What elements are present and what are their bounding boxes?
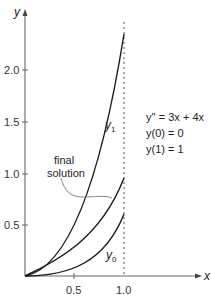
- curve-y1: [25, 34, 124, 276]
- x-tick-label-0.5: 0.5: [66, 284, 81, 296]
- boundary-condition-0: y(0) = 0: [146, 127, 184, 139]
- x-axis-label: x: [203, 269, 211, 283]
- y-axis-label: y: [13, 5, 21, 19]
- label-y1: y1: [104, 118, 116, 134]
- y-tick-label-2.0: 2.0: [4, 64, 19, 76]
- y-tick-label-1.0: 1.0: [4, 168, 19, 180]
- y-tick-label-1.5: 1.5: [4, 116, 19, 128]
- chart: y x 0.5 1.0 1.5 2.0 0.5 1.0 y1 y0 final …: [0, 0, 211, 299]
- x-axis-arrow-icon: [195, 274, 202, 279]
- ode-equation: y'' = 3x + 4x: [146, 111, 205, 123]
- label-y0: y0: [105, 248, 117, 264]
- boundary-condition-1: y(1) = 1: [146, 143, 184, 155]
- final-solution-label-line2: solution: [47, 167, 85, 179]
- x-tick-label-1.0: 1.0: [116, 284, 131, 296]
- final-solution-label-line1: final: [54, 154, 74, 166]
- y-axis-arrow-icon: [23, 9, 28, 16]
- y-tick-label-0.5: 0.5: [4, 219, 19, 231]
